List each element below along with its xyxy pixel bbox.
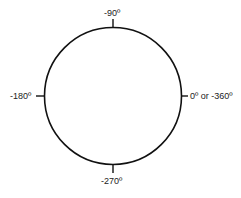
label-bottom: -270º <box>101 176 122 186</box>
unit-circle <box>45 28 182 165</box>
label-top: -90º <box>104 8 120 18</box>
label-right: 0º or -360º <box>190 91 233 101</box>
label-left: -180º <box>10 91 31 101</box>
